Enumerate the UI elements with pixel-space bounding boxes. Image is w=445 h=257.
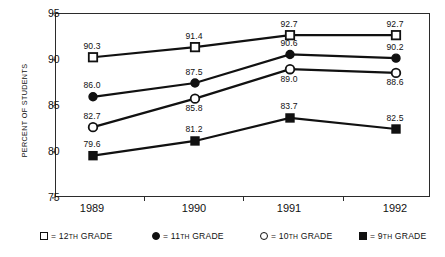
x-axis-tick-1992: 1992 — [383, 202, 407, 214]
data-label-83.7: 83.7 — [280, 101, 297, 111]
data-point-marker — [191, 79, 199, 87]
data-label-90.6: 90.6 — [280, 38, 297, 48]
line-chart: PERCENT OF STUDENTS 7580859095 198919901… — [0, 0, 445, 257]
x-axis-tick-mark — [343, 196, 344, 201]
data-label-92.7: 92.7 — [386, 19, 403, 29]
data-label-82.7: 82.7 — [83, 111, 100, 121]
legend-label: = 11TH GRADE — [163, 231, 224, 241]
data-label-92.7: 92.7 — [280, 19, 297, 29]
legend-label: = 12TH GRADE — [51, 231, 112, 241]
x-axis-tick-mark — [243, 196, 244, 201]
filled-circle-icon — [152, 232, 160, 240]
data-point-marker — [191, 94, 200, 103]
data-label-85.8: 85.8 — [185, 103, 202, 113]
legend-item-12th-grade[interactable]: = 12TH GRADE — [40, 231, 112, 241]
chart-legend: = 12TH GRADE= 11TH GRADE= 10TH GRADE= 9T… — [0, 231, 445, 251]
data-label-91.4: 91.4 — [185, 31, 202, 41]
data-label-90.3: 90.3 — [83, 41, 100, 51]
legend-label: = 10TH GRADE — [271, 231, 332, 241]
data-label-86.0: 86.0 — [83, 80, 100, 90]
open-square-icon — [40, 232, 48, 240]
series-line-10th-grade — [93, 69, 396, 127]
series-lines-layer — [56, 14, 431, 198]
plot-area — [55, 13, 430, 197]
data-label-81.2: 81.2 — [185, 124, 202, 134]
data-label-82.5: 82.5 — [386, 113, 403, 123]
legend-item-9th-grade[interactable]: = 9TH GRADE — [359, 231, 426, 241]
legend-item-10th-grade[interactable]: = 10TH GRADE — [260, 231, 332, 241]
data-point-marker — [286, 114, 294, 122]
data-point-marker — [89, 93, 97, 101]
x-axis-tick-1990: 1990 — [182, 202, 206, 214]
data-point-marker — [392, 54, 400, 62]
data-label-87.5: 87.5 — [185, 67, 202, 77]
series-line-12th-grade — [93, 35, 396, 57]
data-point-marker — [89, 152, 97, 160]
filled-square-icon — [359, 232, 367, 240]
data-label-90.2: 90.2 — [386, 42, 403, 52]
data-point-marker — [191, 137, 199, 145]
data-label-89.0: 89.0 — [280, 74, 297, 84]
data-point-marker — [286, 50, 294, 58]
legend-item-11th-grade[interactable]: = 11TH GRADE — [152, 231, 224, 241]
data-point-marker — [392, 125, 400, 133]
data-point-marker — [191, 43, 199, 51]
x-axis-tick-1989: 1989 — [80, 202, 104, 214]
data-point-marker — [89, 123, 98, 132]
data-point-marker — [286, 65, 295, 74]
data-label-88.6: 88.6 — [386, 77, 403, 87]
x-axis-tick-mark — [144, 196, 145, 201]
y-axis-title: PERCENT OF STUDENTS — [20, 41, 29, 181]
series-line-9th-grade — [93, 118, 396, 156]
open-circle-icon — [260, 232, 268, 240]
data-point-marker — [392, 69, 401, 78]
x-axis-tick-1991: 1991 — [277, 202, 301, 214]
series-line-11th-grade — [93, 54, 396, 96]
data-point-marker — [392, 31, 400, 39]
data-point-marker — [89, 53, 97, 61]
legend-label: = 9TH GRADE — [370, 231, 426, 241]
data-label-79.6: 79.6 — [83, 139, 100, 149]
